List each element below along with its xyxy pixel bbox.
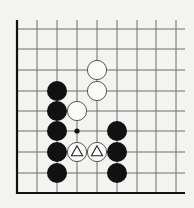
small-dot-marker: [74, 128, 79, 133]
board-edges: [16, 20, 185, 194]
black-stone: [107, 142, 127, 162]
black-stone: [47, 81, 67, 101]
white-stone: [87, 81, 106, 100]
go-board-diagram: [0, 0, 194, 208]
stones-layer: [47, 60, 127, 183]
black-stone: [107, 121, 127, 141]
black-stone: [107, 163, 127, 183]
white-stone: [67, 101, 86, 120]
black-stone: [47, 142, 67, 162]
black-stone: [47, 121, 67, 141]
board-grid: [17, 20, 185, 193]
black-stone: [47, 101, 67, 121]
point-markers: [74, 128, 79, 133]
black-stone: [47, 163, 67, 183]
white-stone: [87, 60, 106, 79]
